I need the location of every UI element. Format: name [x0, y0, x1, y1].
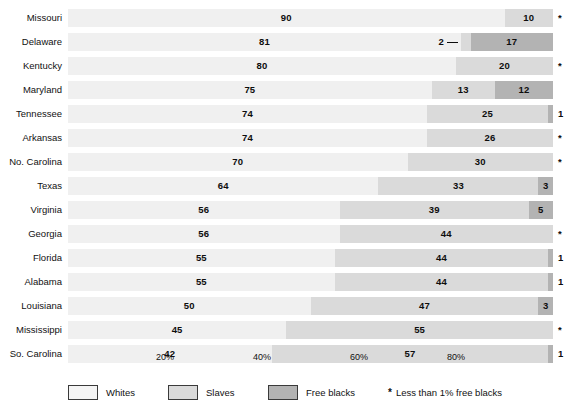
- segment-slaves[interactable]: 10: [505, 9, 554, 27]
- segment-slaves[interactable]: 20: [456, 57, 553, 75]
- row-label-louisiana: Louisiana: [0, 294, 62, 318]
- row-label-maryland: Maryland: [0, 78, 62, 102]
- chart-row: Louisiana50473: [0, 294, 570, 318]
- segment-value: 20: [456, 57, 553, 75]
- segment-free-blacks[interactable]: 5: [529, 201, 553, 219]
- segment-whites[interactable]: 74: [68, 129, 427, 147]
- segment-value: 45: [68, 321, 286, 339]
- row-marker: [558, 198, 570, 222]
- segment-value: 74: [68, 129, 427, 147]
- segment-whites[interactable]: 55: [68, 273, 335, 291]
- chart-rows: Missouri9010*Delaware81217Kentucky8020*M…: [0, 6, 570, 366]
- segment-slaves[interactable]: 44: [340, 225, 553, 243]
- segment-value: 26: [427, 129, 553, 147]
- segment-value: 13: [432, 81, 495, 99]
- segment-value: 47: [311, 297, 539, 315]
- segment-value: 55: [286, 321, 553, 339]
- row-label-kentucky: Kentucky: [0, 54, 62, 78]
- segment-value: 56: [68, 201, 340, 219]
- chart-legend: Whites Slaves Free blacks * Less than 1%…: [68, 382, 568, 404]
- segment-whites[interactable]: 50: [68, 297, 311, 315]
- row-label-no-carolina: No. Carolina: [0, 150, 62, 174]
- segment-slaves[interactable]: 33: [378, 177, 538, 195]
- segment-slaves[interactable]: 13: [432, 81, 495, 99]
- segment-free-blacks[interactable]: 3: [538, 177, 553, 195]
- segment-value: 10: [505, 9, 554, 27]
- segment-value: 90: [68, 9, 505, 27]
- segment-value: 17: [471, 33, 553, 51]
- chart-row: Maryland751312: [0, 78, 570, 102]
- legend-item-free-blacks[interactable]: Free blacks: [268, 382, 355, 402]
- segment-value: 12: [495, 81, 553, 99]
- x-axis-tick-label: 60%: [350, 352, 368, 362]
- segment-slaves[interactable]: 25: [427, 105, 548, 123]
- chart-row: No. Carolina7030*: [0, 150, 570, 174]
- segment-whites[interactable]: 45: [68, 321, 286, 339]
- segment-whites[interactable]: 74: [68, 105, 427, 123]
- segment-whites[interactable]: 56: [68, 225, 340, 243]
- bar-track: 5544: [68, 249, 553, 267]
- x-axis-tick-label: 20%: [156, 352, 174, 362]
- row-marker: 1: [558, 246, 570, 270]
- segment-whites[interactable]: 81: [68, 33, 461, 51]
- segment-free-blacks[interactable]: 12: [495, 81, 553, 99]
- segment-slaves[interactable]: 39: [340, 201, 529, 219]
- x-axis-tick-label: 80%: [447, 352, 465, 362]
- bar-track: 5644: [68, 225, 553, 243]
- segment-callout: 2: [439, 33, 461, 51]
- segment-free-blacks[interactable]: 3: [538, 297, 553, 315]
- row-label-texas: Texas: [0, 174, 62, 198]
- legend-item-whites[interactable]: Whites: [68, 382, 135, 402]
- segment-value: 44: [340, 225, 553, 243]
- row-marker: [558, 174, 570, 198]
- legend-footnote: * Less than 1% free blacks: [388, 382, 502, 402]
- row-label-delaware: Delaware: [0, 30, 62, 54]
- segment-whites[interactable]: 80: [68, 57, 456, 75]
- row-marker: *: [558, 150, 570, 174]
- segment-value: 56: [68, 225, 340, 243]
- chart-row: Georgia5644*: [0, 222, 570, 246]
- bar-track: 7030: [68, 153, 553, 171]
- segment-free-blacks[interactable]: [548, 249, 553, 267]
- row-label-virginia: Virginia: [0, 198, 62, 222]
- segment-value: 74: [68, 105, 427, 123]
- segment-free-blacks[interactable]: 17: [471, 33, 553, 51]
- segment-slaves[interactable]: 26: [427, 129, 553, 147]
- segment-whites[interactable]: 90: [68, 9, 505, 27]
- chart-row: Alabama55441: [0, 270, 570, 294]
- row-marker: *: [558, 318, 570, 342]
- chart-row: Delaware81217: [0, 30, 570, 54]
- chart-row: Virginia56395: [0, 198, 570, 222]
- legend-footnote-text: Less than 1% free blacks: [396, 387, 502, 398]
- segment-slaves[interactable]: 30: [408, 153, 554, 171]
- segment-whites[interactable]: 64: [68, 177, 378, 195]
- segment-value: 3: [538, 297, 553, 315]
- segment-slaves[interactable]: 47: [311, 297, 539, 315]
- segment-free-blacks[interactable]: [548, 105, 553, 123]
- segment-value: 44: [335, 249, 548, 267]
- segment-whites[interactable]: 56: [68, 201, 340, 219]
- bar-track: 56395: [68, 201, 553, 219]
- row-label-missouri: Missouri: [0, 6, 62, 30]
- x-axis: 20%40%60%80%: [68, 352, 553, 366]
- segment-value: 39: [340, 201, 529, 219]
- leader-line-icon: [447, 42, 458, 43]
- bar-track: 751312: [68, 81, 553, 99]
- segment-whites[interactable]: 70: [68, 153, 408, 171]
- segment-value: 25: [427, 105, 548, 123]
- segment-value: 55: [68, 249, 335, 267]
- segment-free-blacks[interactable]: [548, 273, 553, 291]
- segment-slaves[interactable]: 55: [286, 321, 553, 339]
- segment-whites[interactable]: 55: [68, 249, 335, 267]
- segment-slaves[interactable]: 44: [335, 273, 548, 291]
- bar-track: 9010: [68, 9, 553, 27]
- chart-row: Arkansas7426*: [0, 126, 570, 150]
- row-label-so-carolina: So. Carolina: [0, 342, 62, 366]
- segment-value: 55: [68, 273, 335, 291]
- segment-slaves[interactable]: 2: [461, 33, 471, 51]
- row-label-georgia: Georgia: [0, 222, 62, 246]
- legend-item-slaves[interactable]: Slaves: [168, 382, 235, 402]
- segment-whites[interactable]: 75: [68, 81, 432, 99]
- legend-label-slaves: Slaves: [206, 387, 235, 398]
- segment-slaves[interactable]: 44: [335, 249, 548, 267]
